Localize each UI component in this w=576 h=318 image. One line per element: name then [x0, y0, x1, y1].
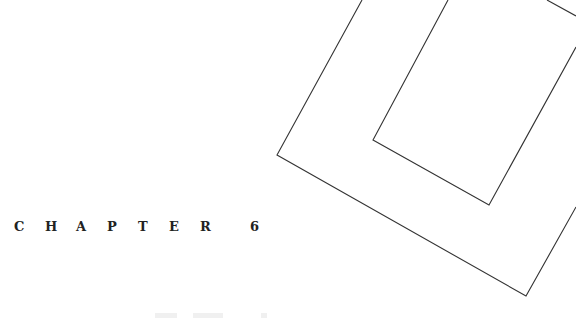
clipped-glyph-fragment — [261, 313, 267, 318]
inner-bracket-line — [373, 0, 576, 205]
chapter-letter: A — [76, 219, 107, 234]
chapter-word: CHAPTER — [14, 219, 231, 234]
clipped-glyph-fragment — [193, 313, 223, 318]
chapter-letter: P — [107, 219, 138, 234]
chapter-heading: CHAPTER 6 — [14, 219, 231, 234]
chapter-letter: H — [45, 219, 76, 234]
chapter-letter: E — [169, 219, 200, 234]
chapter-letter: R — [200, 219, 231, 234]
geometric-frame-decoration — [0, 0, 576, 318]
chapter-letter: C — [14, 219, 45, 234]
clipped-chapter-title — [155, 312, 270, 318]
clipped-glyph-fragment — [155, 313, 177, 318]
chapter-number: 6 — [250, 219, 259, 234]
chapter-letter: T — [138, 219, 169, 234]
outer-bracket-line — [277, 0, 576, 296]
top-right-line — [547, 0, 576, 16]
